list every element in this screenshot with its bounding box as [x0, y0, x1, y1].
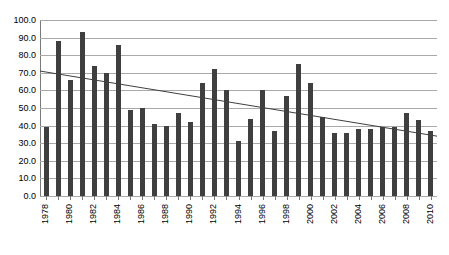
x-axis-tick [190, 196, 191, 200]
x-axis-tick [154, 196, 155, 200]
x-axis-tick [226, 196, 227, 200]
y-axis-tick-label: 60.0 [2, 86, 36, 95]
y-axis-tick-label: 70.0 [2, 69, 36, 78]
x-axis-tick-label: 2010 [426, 204, 435, 224]
x-axis-tick-label: 1990 [185, 204, 194, 224]
x-axis-tick-label: 2006 [378, 204, 387, 224]
x-axis-tick [347, 196, 348, 200]
x-axis-tick-label: 1994 [234, 204, 243, 224]
x-axis-tick [106, 196, 107, 200]
y-axis-tick-label: 90.0 [2, 34, 36, 43]
x-axis-tick [142, 196, 143, 200]
trendline [40, 20, 437, 196]
x-axis-tick [70, 196, 71, 200]
x-axis-tick-label: 1998 [282, 204, 291, 224]
x-axis-tick-label: 1980 [65, 204, 74, 224]
x-axis-tick-label: 1992 [209, 204, 218, 224]
x-axis-tick [82, 196, 83, 200]
x-axis-tick [46, 196, 47, 200]
x-axis-tick [239, 196, 240, 200]
y-axis-tick-label: 20.0 [2, 157, 36, 166]
x-axis-tick-label: 1984 [113, 204, 122, 224]
x-axis-tick [214, 196, 215, 200]
x-axis-tick [335, 196, 336, 200]
x-axis-tick [371, 196, 372, 200]
x-axis-tick [287, 196, 288, 200]
x-axis-tick [130, 196, 131, 200]
y-axis-tick-label: 80.0 [2, 51, 36, 60]
x-axis-tick [166, 196, 167, 200]
x-axis-tick-label: 1978 [41, 204, 50, 224]
x-axis-tick [419, 196, 420, 200]
x-axis-tick [118, 196, 119, 200]
x-axis-tick [395, 196, 396, 200]
x-axis-tick-label: 2004 [354, 204, 363, 224]
x-axis-tick-label: 1986 [137, 204, 146, 224]
x-axis-tick [275, 196, 276, 200]
y-axis-tick-label: 50.0 [2, 104, 36, 113]
x-axis-tick [323, 196, 324, 200]
x-axis-tick [263, 196, 264, 200]
x-axis-tick [58, 196, 59, 200]
x-axis-tick [299, 196, 300, 200]
x-axis-tick [383, 196, 384, 200]
y-axis-tick-label: 100.0 [2, 16, 36, 25]
y-axis-tick-label: 40.0 [2, 122, 36, 131]
x-axis-tick [94, 196, 95, 200]
x-axis-tick [407, 196, 408, 200]
x-axis-tick [178, 196, 179, 200]
x-axis-tick-label: 1996 [258, 204, 267, 224]
x-axis-tick [202, 196, 203, 200]
bar-chart: 0.010.020.030.040.050.060.070.080.090.01… [0, 0, 449, 255]
x-axis-tick [251, 196, 252, 200]
x-axis-tick [359, 196, 360, 200]
y-axis-tick-label: 30.0 [2, 139, 36, 148]
x-axis-tick-label: 2008 [402, 204, 411, 224]
trendline-segment [40, 71, 437, 136]
x-axis-tick [311, 196, 312, 200]
x-axis-tick-label: 1982 [89, 204, 98, 224]
x-axis-tick [431, 196, 432, 200]
x-axis-tick-label: 1988 [161, 204, 170, 224]
y-axis-tick-label: 10.0 [2, 174, 36, 183]
x-axis-tick-label: 2000 [306, 204, 315, 224]
x-axis-tick-labels: 1978198019821984198619881990199219941996… [0, 200, 449, 255]
x-axis-tick-label: 2002 [330, 204, 339, 224]
